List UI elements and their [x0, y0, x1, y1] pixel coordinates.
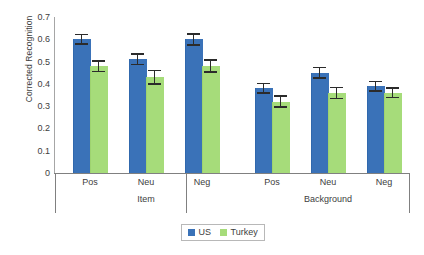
error-bar-item-neu-us [131, 53, 144, 65]
x-axis-group-item: Item [137, 194, 155, 204]
bar-chart: Corrected Recognition 00.10.20.30.40.50.… [0, 0, 424, 255]
bar-item-neu-turkey [146, 77, 164, 173]
x-axis-line [54, 173, 410, 174]
y-axis-tick-0p4: 0.4 [37, 79, 50, 89]
error-bar-background-neu-turkey [330, 87, 343, 99]
x-axis-category-item-neg: Neg [194, 177, 211, 187]
x-axis-category-background-neu: Neu [320, 177, 337, 187]
y-axis-tick-labels: 00.10.20.30.40.50.60.7 [26, 12, 50, 178]
y-axis-tick-0p3: 0.3 [37, 101, 50, 111]
error-bar-item-neg-us [187, 33, 200, 45]
legend-item-us: US [188, 227, 211, 237]
legend-swatch-turkey-icon [220, 229, 227, 236]
bar-background-pos-turkey [272, 102, 290, 173]
error-bar-background-neg-turkey [386, 87, 399, 98]
axis-separator-1 [186, 173, 187, 213]
bar-item-neg-us [185, 39, 203, 173]
legend-label-turkey: Turkey [231, 227, 258, 237]
error-bar-item-pos-us [75, 34, 88, 45]
bar-background-neg-us [367, 86, 385, 173]
y-axis-tick-0: 0 [45, 168, 50, 178]
x-axis-category-background-neg: Neg [376, 177, 393, 187]
y-axis-tick-0p2: 0.2 [37, 123, 50, 133]
axis-separator-0 [55, 173, 56, 213]
error-bar-item-neg-turkey [204, 59, 217, 72]
bar-background-neu-turkey [328, 93, 346, 173]
error-bar-item-neu-turkey [148, 70, 161, 85]
y-axis-tick-0p6: 0.6 [37, 34, 50, 44]
bar-item-neu-us [129, 59, 147, 173]
bar-background-neg-turkey [384, 93, 402, 173]
x-axis-category-background-pos: Pos [264, 177, 280, 187]
x-axis-category-item-neu: Neu [138, 177, 155, 187]
error-bar-background-neu-us [313, 67, 326, 79]
legend-item-turkey: Turkey [220, 227, 258, 237]
bar-item-pos-us [73, 39, 91, 173]
chart-legend: US Turkey [181, 224, 265, 241]
plot-area [55, 17, 410, 173]
error-bar-background-pos-us [257, 83, 270, 94]
bar-item-pos-turkey [90, 66, 108, 173]
error-bar-background-neg-us [369, 81, 382, 92]
error-bar-item-pos-turkey [92, 60, 105, 72]
y-axis-tick-0p1: 0.1 [37, 146, 50, 156]
x-axis-category-item-pos: Pos [82, 177, 98, 187]
y-axis-tick-0p5: 0.5 [37, 57, 50, 67]
axis-separator-2 [409, 173, 410, 213]
bar-background-neu-us [311, 73, 329, 173]
legend-label-us: US [199, 227, 212, 237]
y-axis-tick-0p7: 0.7 [37, 12, 50, 22]
x-axis-group-background: Background [304, 194, 352, 204]
bar-background-pos-us [255, 88, 273, 173]
error-bar-background-pos-turkey [274, 95, 287, 107]
bar-item-neg-turkey [202, 66, 220, 173]
group-label-row: ItemBackground [55, 192, 410, 214]
legend-swatch-us-icon [188, 229, 195, 236]
